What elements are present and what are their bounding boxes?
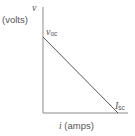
x-axis-symbol: i: [59, 121, 62, 131]
x-axis-unit: (amps): [64, 120, 94, 131]
x-axis-label: i (amps): [59, 121, 94, 132]
y-intercept-label: voc: [46, 27, 57, 38]
x-intercept-label: Isc: [115, 101, 125, 112]
y-axis-unit: (volts): [2, 15, 28, 25]
y-axis-symbol: v: [32, 3, 36, 13]
iv-curve-line: [43, 37, 118, 113]
